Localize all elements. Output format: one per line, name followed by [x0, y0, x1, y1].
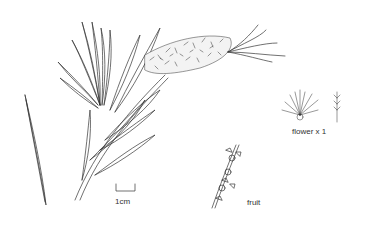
flower-spike: [145, 36, 231, 74]
flower-label: flower x 1: [292, 127, 326, 136]
botanical-illustration: 1cm flower x 1 fruit: [0, 0, 366, 228]
stamen-detail: [334, 92, 340, 122]
fruit-label: fruit: [247, 198, 260, 207]
scale-bar-label: 1cm: [115, 197, 130, 206]
plant-drawing: [0, 0, 366, 228]
single-leaf: [25, 95, 46, 205]
flower-detail: [282, 90, 318, 120]
leafy-branch: [58, 22, 168, 200]
scale-bar: [116, 184, 135, 191]
fruit-stem: [212, 145, 241, 208]
tip-leaves: [228, 25, 285, 62]
